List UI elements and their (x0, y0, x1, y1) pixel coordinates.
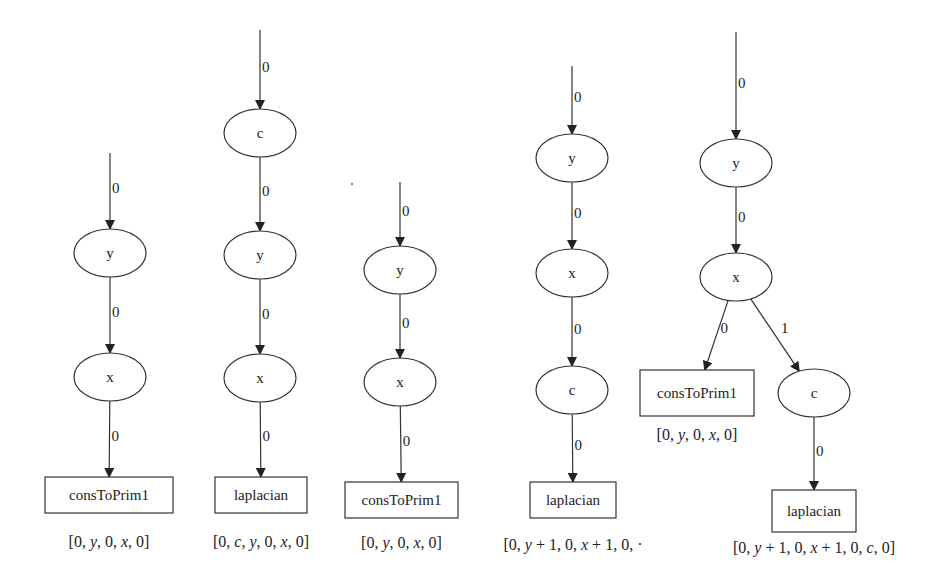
node-label: c (257, 125, 264, 141)
node-label: laplacian (234, 487, 289, 503)
edge-label: 1 (781, 320, 789, 336)
edges-layer (109, 30, 814, 490)
edge-arrow (260, 402, 261, 477)
node-label: consToPrim1 (69, 487, 149, 503)
node-label: laplacian (546, 492, 601, 508)
node-label: c (811, 385, 818, 401)
edge-arrow (109, 401, 110, 477)
edge-label: 0 (112, 180, 120, 196)
edge-label: 0 (402, 203, 410, 219)
edge-label: 0 (403, 433, 411, 449)
edge-label: 0 (111, 428, 119, 444)
node-label: x (256, 370, 264, 386)
node-label: x (732, 269, 740, 285)
edge-arrow (400, 406, 401, 482)
index-annotation: [0, y + 1, 0, x + 1, 0, · (504, 536, 643, 554)
edge-label: 0 (738, 75, 746, 91)
tree-3 (400, 182, 401, 482)
node-label: x (568, 265, 576, 281)
node-label: y (256, 247, 264, 263)
edge-label: 0 (402, 315, 410, 331)
edge-label: 0 (574, 321, 582, 337)
node-label: x (106, 369, 114, 385)
diagram-canvas: 000yxconsToPrim1[0, y, 0, x, 0]0000cyxla… (0, 0, 949, 580)
node-label: y (568, 150, 576, 166)
edge-label: 0 (816, 443, 824, 459)
tree-1 (109, 153, 110, 477)
nodes-layer (45, 109, 856, 532)
edge-label: 0 (574, 205, 582, 221)
edge-label: 0 (574, 89, 582, 105)
node-label: y (732, 155, 740, 171)
node-label: consToPrim1 (657, 385, 737, 401)
edge-label: 0 (738, 209, 746, 225)
edge-arrow (751, 299, 800, 371)
edge-label: 0 (112, 304, 120, 320)
labels-layer: 000yxconsToPrim1[0, y, 0, x, 0]0000cyxla… (69, 59, 895, 558)
edge-label: 0 (262, 306, 270, 322)
index-annotation: [0, y, 0, x, 0] (361, 534, 442, 552)
node-label: y (106, 245, 114, 261)
edge-label: 0 (720, 320, 728, 336)
node-label: laplacian (787, 503, 842, 519)
decision-trees-figure: 000yxconsToPrim1[0, y, 0, x, 0]0000cyxla… (0, 0, 949, 580)
index-annotation: [0, c, y, 0, x, 0] (213, 533, 309, 551)
edge-label: 0 (575, 437, 583, 453)
index-annotation: [0, y + 1, 0, x + 1, 0, c, 0] (733, 539, 895, 557)
node-label: y (396, 262, 404, 278)
node-label: c (569, 382, 576, 398)
index-annotation: [0, y, 0, x, 0] (657, 426, 738, 444)
node-label: consToPrim1 (362, 492, 442, 508)
edge-label: 0 (263, 428, 271, 444)
index-annotation: [0, y, 0, x, 0] (69, 533, 150, 551)
edge-label: 0 (262, 59, 270, 75)
edge-arrow (572, 414, 573, 482)
edge-label: 0 (262, 183, 270, 199)
node-label: x (396, 374, 404, 390)
stray-dot (351, 183, 353, 185)
